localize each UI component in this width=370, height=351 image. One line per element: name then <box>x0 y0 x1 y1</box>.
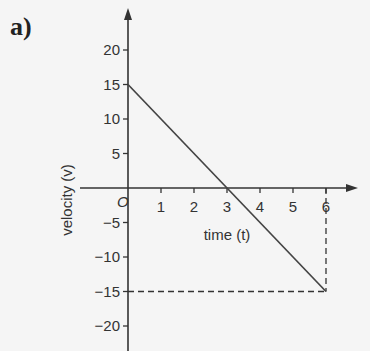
y-axis-label: velocity (v) <box>58 164 75 236</box>
x-axis-label: time (t) <box>204 226 251 243</box>
x-axis-arrow-icon <box>346 184 358 192</box>
y-axis-arrow-icon <box>124 8 132 20</box>
x-tick-label: 5 <box>289 198 297 215</box>
x-tick-label: 1 <box>157 198 165 215</box>
x-tick-label: 2 <box>190 198 198 215</box>
y-tick-label: 5 <box>112 145 120 162</box>
y-tick-label: 10 <box>103 110 120 127</box>
y-tick-label: −15 <box>95 283 120 300</box>
y-tick-label: 15 <box>103 76 120 93</box>
origin-label: O <box>117 193 129 210</box>
x-tick-label: 3 <box>223 198 231 215</box>
x-tick-label: 4 <box>256 198 264 215</box>
y-tick-label: −20 <box>95 317 120 334</box>
y-tick-label: −5 <box>103 214 120 231</box>
velocity-time-chart: 2015105−5−10−15−20123456Otime (t)velocit… <box>0 0 370 351</box>
y-tick-label: 20 <box>103 41 120 58</box>
y-tick-label: −10 <box>95 248 120 265</box>
